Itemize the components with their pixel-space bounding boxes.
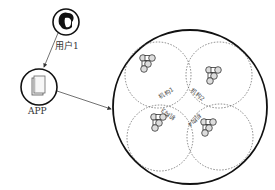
edge-app-cluster xyxy=(57,91,111,109)
app-door-icon xyxy=(32,76,45,95)
user-node xyxy=(53,9,79,35)
user-label: 用户1 xyxy=(55,39,79,52)
app-node xyxy=(21,69,57,105)
institution-cluster xyxy=(113,30,267,184)
app-label: APP xyxy=(28,106,47,116)
diagram-canvas xyxy=(0,0,275,190)
